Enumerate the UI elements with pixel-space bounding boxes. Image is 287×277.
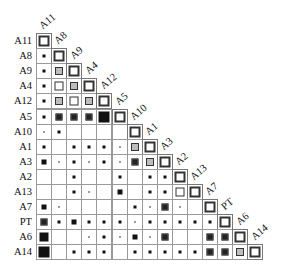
diagonal-marker [54,51,65,62]
tiny-dot [58,161,60,163]
matrix-cell [36,139,52,155]
matrix-cell [51,214,67,230]
matrix-cell [157,214,173,230]
matrix-cell [157,244,173,260]
matrix-cell [157,184,173,200]
framed-gray-square [236,248,244,256]
matrix-cell [157,169,173,185]
matrix-cell [112,109,128,125]
row-label: A13 [0,184,32,199]
framed-gray-square [55,67,63,75]
matrix-cell [157,229,173,245]
column-label: A12 [98,71,119,91]
matrix-cell [36,124,52,140]
xlarge-square [39,247,50,258]
small-dot [88,251,91,254]
column-label: A1 [143,120,160,137]
large-square [40,233,49,242]
matrix-cell [51,154,67,170]
matrix-cell [66,78,82,94]
matrix-cell [112,244,128,260]
matrix-cell [36,93,52,109]
matrix-cell [81,124,97,140]
matrix-cell [96,109,112,125]
matrix-cell [66,169,82,185]
framed-dark-square [207,249,214,256]
matrix-cell [142,139,158,155]
matrix-cell [96,124,112,140]
matrix-cell [172,199,188,215]
matrix-cell [112,229,128,245]
matrix-cell [157,199,173,215]
matrix-cell [96,139,112,155]
matrix-cell [36,214,52,230]
diagonal-marker [250,247,261,258]
column-label: A4 [83,60,100,77]
matrix-cell [112,154,128,170]
small-dot [163,251,166,254]
matrix-cell [96,154,112,170]
medium-square [72,220,77,225]
matrix-cell [66,229,82,245]
framed-white-square [175,188,184,197]
matrix-cell [157,154,173,170]
matrix-cell [112,169,128,185]
diagonal-marker [159,156,170,167]
matrix-cell [112,199,128,215]
diagonal-marker [114,111,125,122]
matrix-cell [127,124,143,140]
matrix-cell [142,184,158,200]
column-label: A9 [67,45,84,62]
matrix-cell [81,154,97,170]
matrix-cell [51,109,67,125]
small-dot [103,145,106,148]
small-dot [178,251,181,254]
small-dot [88,221,91,224]
matrix-cell [96,229,112,245]
matrix-cell [36,169,52,185]
matrix-cell [66,244,82,260]
framed-dark-square [56,113,63,120]
matrix-cell [112,214,128,230]
matrix-cell [127,244,143,260]
framed-dark-square [161,234,168,241]
row-label: A2 [0,169,32,184]
column-label: A6 [234,211,251,228]
matrix-cell [81,214,97,230]
tiny-dot [88,191,90,193]
column-label: A5 [113,90,130,107]
matrix-cell [96,93,112,109]
small-dot [73,191,76,194]
small-dot [118,175,121,178]
matrix-cell [51,93,67,109]
matrix-cell [202,214,218,230]
framed-gray-square [85,97,93,105]
matrix-cell [51,63,67,79]
matrix-cell [187,229,203,245]
matrix-cell [51,48,67,64]
matrix-cell [36,199,52,215]
matrix-cell [51,78,67,94]
row-label: PT [0,214,32,229]
column-label: A2 [173,150,190,167]
framed-dark-square [161,204,168,211]
matrix-cell [66,63,82,79]
tiny-dot [179,206,181,208]
matrix-cell [112,139,128,155]
matrix-cell [172,229,188,245]
row-label: A4 [0,78,32,93]
framed-dark-square [207,234,214,241]
diagonal-marker [220,217,231,228]
matrix-cell [51,139,67,155]
matrix-cell [51,229,67,245]
diagonal-marker [84,81,95,92]
matrix-cell [202,229,218,245]
matrix-cell [202,244,218,260]
framed-gray-square [146,158,154,166]
matrix-cell [96,199,112,215]
tiny-dot [149,236,151,238]
matrix-cell [127,139,143,155]
row-label: A8 [0,48,32,63]
column-label: A3 [158,135,175,152]
matrix-cell [142,229,158,245]
